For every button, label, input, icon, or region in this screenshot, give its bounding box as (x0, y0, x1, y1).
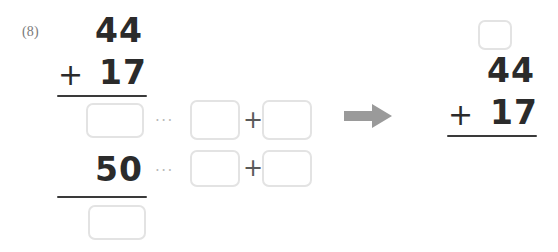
left-tens-decomp-plus: + (243, 156, 263, 180)
left-total-answer-box[interactable] (88, 205, 146, 240)
left-tens-ellipsis: ··· (155, 164, 174, 179)
problem-number-label: (8) (22, 24, 39, 40)
left-ones-decomp-left-box[interactable] (190, 100, 240, 140)
left-tens-value: 50 (95, 153, 143, 186)
right-addend-bottom: 17 (490, 96, 538, 129)
right-arrow-icon (342, 100, 394, 132)
left-ones-answer-box[interactable] (86, 103, 144, 138)
right-problem-group: 44 + 17 (420, 0, 558, 252)
right-operator-plus: + (448, 100, 473, 130)
left-operator-plus: + (58, 60, 83, 90)
left-problem-group: (8) 44 + 17 ··· + 50 ··· + (0, 0, 320, 252)
worksheet-canvas: (8) 44 + 17 ··· + 50 ··· + (0, 0, 558, 252)
left-ones-decomp-right-box[interactable] (262, 100, 312, 140)
left-sum-rule-top (57, 95, 147, 97)
left-sum-rule-bottom (57, 196, 147, 198)
left-addend-top: 44 (95, 14, 143, 47)
left-addend-bottom: 17 (99, 56, 147, 89)
right-carry-box[interactable] (478, 20, 512, 50)
left-tens-decomp-right-box[interactable] (262, 150, 312, 187)
left-ones-decomp-plus: + (243, 108, 263, 132)
right-addend-top: 44 (487, 54, 535, 87)
right-sum-rule (447, 135, 537, 137)
left-tens-decomp-left-box[interactable] (190, 150, 240, 187)
transform-arrow (342, 100, 394, 132)
left-ones-ellipsis: ··· (155, 114, 174, 129)
